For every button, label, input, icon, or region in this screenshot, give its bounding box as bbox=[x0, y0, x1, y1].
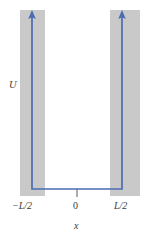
y-axis-label: U bbox=[9, 80, 17, 91]
x-tick-label-positive-half-L: L/2 bbox=[114, 201, 127, 211]
potential-well-figure: U −L/2 0 L/2 x bbox=[0, 0, 154, 240]
x-axis-label: x bbox=[74, 221, 78, 231]
x-tick-label-zero: 0 bbox=[73, 201, 78, 211]
right-barrier-region bbox=[110, 10, 140, 196]
potential-curve bbox=[32, 16, 122, 189]
x-tick-label-negative-half-L: −L/2 bbox=[12, 201, 32, 211]
